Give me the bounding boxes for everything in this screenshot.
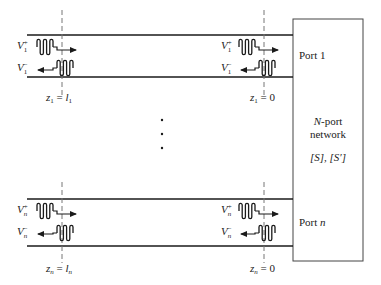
network-title-line2: network	[310, 128, 347, 140]
ellipsis-dots	[161, 119, 163, 149]
incident-wave-icon	[239, 203, 278, 218]
v-plus-left-label-port-1: V+1	[17, 39, 28, 54]
v-minus-right-label-port-n: V−n	[221, 225, 232, 240]
v-plus-right-label-port-n: V+n	[221, 203, 232, 218]
z-left-label-port-n: zn = ln	[45, 262, 73, 276]
reflected-wave-icon	[38, 225, 73, 240]
scattering-matrices-label: [S], [S′]	[310, 151, 346, 163]
z-left-label-port-1: z1 = l1	[45, 91, 73, 105]
reflected-wave-icon	[241, 60, 275, 75]
n-port-network-diagram: V+1 V−1 V+1 V−1 z1 = l1 z1 = 0 Port 1 V+…	[0, 0, 381, 285]
incident-wave-icon	[37, 39, 76, 54]
reflected-wave-icon	[241, 225, 275, 240]
network-title-line1: N-port	[313, 115, 343, 127]
port-n-label: Port n	[299, 216, 326, 228]
incident-wave-icon	[239, 39, 278, 54]
z-right-label-port-n: zn = 0	[249, 262, 276, 276]
v-minus-left-label-port-1: V−1	[17, 61, 28, 76]
z-right-label-port-1: z1 = 0	[249, 91, 276, 105]
incident-wave-icon	[37, 203, 76, 218]
v-minus-left-label-port-n: V−n	[17, 225, 28, 240]
v-plus-right-label-port-1: V+1	[221, 39, 232, 54]
reflected-wave-icon	[38, 60, 73, 75]
v-minus-right-label-port-1: V−1	[221, 61, 232, 76]
v-plus-left-label-port-n: V+n	[17, 203, 28, 218]
port-1-label: Port 1	[299, 49, 326, 61]
